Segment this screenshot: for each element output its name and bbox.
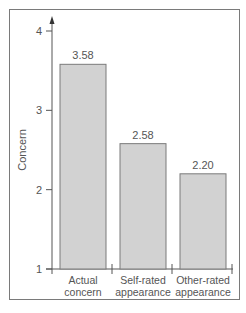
- bar-chart: 1234 3.582.582.20 ActualconcernSelf-rate…: [0, 0, 246, 313]
- y-axis-arrow-icon: [50, 16, 55, 24]
- bars: 3.582.582.20: [60, 49, 226, 269]
- x-tick-label: Self-rated: [120, 274, 166, 286]
- x-tick-label: Other-rated: [176, 274, 230, 286]
- y-axis-ticks: 1234: [36, 25, 52, 275]
- x-tick-label: appearance: [175, 286, 231, 298]
- x-tick-label: appearance: [115, 286, 171, 298]
- y-tick-label: 4: [36, 25, 42, 37]
- bar: [180, 174, 226, 269]
- bar-value-label: 2.58: [132, 129, 153, 141]
- y-tick-label: 3: [36, 104, 42, 116]
- bar-value-label: 3.58: [72, 49, 93, 61]
- bar: [60, 64, 106, 269]
- x-tick-label: Actual: [68, 274, 97, 286]
- y-tick-label: 1: [36, 263, 42, 275]
- x-tick-label: concern: [64, 286, 102, 298]
- bar-value-label: 2.20: [192, 159, 213, 171]
- bar: [120, 144, 166, 269]
- y-axis-label: Concern: [16, 129, 28, 171]
- y-tick-label: 2: [36, 184, 42, 196]
